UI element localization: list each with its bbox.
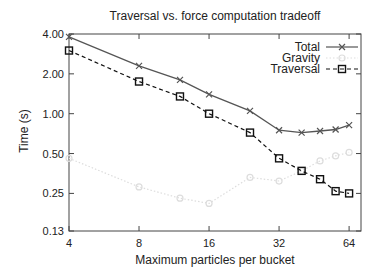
y-tick-label: 1.00 [43, 108, 64, 120]
y-tick-label: 4.00 [43, 28, 64, 40]
y-tick-label: 0.50 [43, 148, 64, 160]
chart: Traversal vs. force computation tradeoff… [0, 0, 381, 280]
x-tick-label: 64 [343, 237, 355, 249]
y-axis-label: Time (s) [17, 109, 31, 153]
legend: TotalGravityTraversal [270, 40, 358, 76]
x-tick-label: 16 [203, 237, 215, 249]
x-tick-label: 8 [136, 237, 142, 249]
x-tick-label: 4 [66, 237, 72, 249]
legend-label: Traversal [270, 62, 320, 76]
chart-title: Traversal vs. force computation tradeoff [110, 9, 321, 23]
y-tick-label: 2.00 [43, 68, 64, 80]
y-tick-label: 0.25 [43, 187, 64, 199]
series-gravity [66, 149, 352, 206]
x-axis-label: Maximum particles per bucket [135, 253, 295, 267]
x-tick-label: 32 [273, 237, 285, 249]
y-tick-label: 0.13 [43, 225, 64, 237]
